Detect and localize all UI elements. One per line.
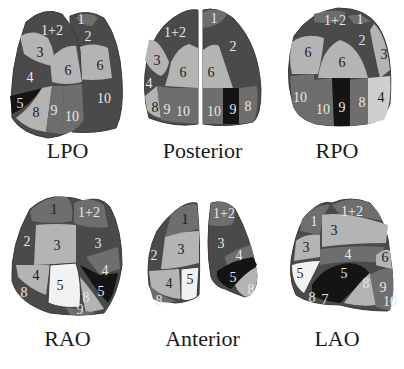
segment-label: 10 xyxy=(176,104,190,119)
view-caption: LAO xyxy=(270,326,404,352)
segment-label: 1+2 xyxy=(41,23,63,38)
view-caption: RPO xyxy=(270,138,404,164)
segment-label: 3 xyxy=(331,223,338,238)
segment-label: 4 xyxy=(345,247,352,262)
segment-label: 8 xyxy=(21,285,28,300)
segment-label: 4 xyxy=(102,263,109,278)
segment-label: 10 xyxy=(97,91,111,106)
segment-label: 6 xyxy=(305,45,312,60)
segment-label: 2 xyxy=(85,29,92,44)
segment-label: 6 xyxy=(339,55,346,70)
segment-label: 2 xyxy=(230,39,237,54)
segment-label: 9 xyxy=(380,280,387,295)
view-caption: Posterior xyxy=(135,138,270,164)
segment-label: 3 xyxy=(54,238,61,253)
segment-label: 2 xyxy=(359,33,366,48)
view-lpo: 1+2 1 2 3 6 6 4 5 8 9 10 10 LPO xyxy=(0,0,135,185)
segment-label: 10 xyxy=(383,294,397,309)
segment-label: 5 xyxy=(230,270,237,285)
segment-label: 5 xyxy=(297,266,304,281)
segment-label: 8 xyxy=(152,100,159,115)
segment-label: 1 xyxy=(357,12,364,27)
view-lao: 1 1+2 3 3 4 6 5 5 8 9 8 7 10 LAO xyxy=(270,185,404,369)
view-posterior: 1+2 1 2 3 6 6 4 8 9 10 10 9 8 Posterior xyxy=(135,0,270,185)
segment-label: 9 xyxy=(164,102,171,117)
segment-label: 1 xyxy=(211,11,218,26)
segment-label: 3 xyxy=(95,236,102,251)
segment-label: 4 xyxy=(236,248,243,263)
segment-label: 3 xyxy=(381,47,388,62)
segment-label: 8 xyxy=(83,290,90,305)
segment-label: 1 xyxy=(311,214,318,229)
segment-label: 10 xyxy=(293,90,307,105)
segment-label: 4 xyxy=(27,70,34,85)
segment-label: 6 xyxy=(65,63,72,78)
segment-label: 1 xyxy=(182,212,189,227)
segment-label: 8 xyxy=(309,290,316,305)
segment-label: 3 xyxy=(37,45,44,60)
segment-label: 5 xyxy=(187,272,194,287)
segment-label: 3 xyxy=(178,242,185,257)
segment-label: 9 xyxy=(339,100,346,115)
segment-label: 1+2 xyxy=(164,25,186,40)
segment-label: 8 xyxy=(156,293,163,308)
view-caption: Anterior xyxy=(135,326,270,352)
segment-label: 8 xyxy=(363,276,370,291)
segment-label: 4 xyxy=(378,90,385,105)
segment-label: 3 xyxy=(303,240,310,255)
segment-label: 8 xyxy=(245,99,252,114)
segment-label: 5 xyxy=(17,96,24,111)
segment-label: 8 xyxy=(33,105,40,120)
view-caption: RAO xyxy=(0,326,135,352)
segment-label: 2 xyxy=(24,234,31,249)
segment-label: 6 xyxy=(382,250,389,265)
segment-label: 1+2 xyxy=(324,13,346,28)
view-anterior: 1 1+2 2 3 3 4 4 5 5 8 8 Anterior xyxy=(135,185,270,369)
segment-label: 6 xyxy=(180,65,187,80)
segment-label: 4 xyxy=(146,76,153,91)
segment-label: 3 xyxy=(154,53,161,68)
segment-label: 1+2 xyxy=(213,206,235,221)
segment-label: 5 xyxy=(341,266,348,281)
segment-label: 10 xyxy=(207,104,221,119)
segment-label: 8 xyxy=(248,282,255,297)
segment-label: 10 xyxy=(316,102,330,117)
segment-label: 9 xyxy=(51,103,58,118)
segment-label: 1+2 xyxy=(78,205,100,220)
segment-label: 8 xyxy=(359,95,366,110)
segment-label: 5 xyxy=(98,284,105,299)
segment-label: 9 xyxy=(230,102,237,117)
segment-label: 7 xyxy=(322,292,329,307)
segment-label: 3 xyxy=(218,236,225,251)
view-caption: LPO xyxy=(0,138,135,164)
segment-label: 1 xyxy=(78,12,85,27)
segment-label: 6 xyxy=(208,65,215,80)
view-rao: 1 1+2 2 3 3 4 4 5 8 5 8 9 RAO xyxy=(0,185,135,369)
segment-label: 2 xyxy=(151,248,158,263)
segment-label: 9 xyxy=(77,302,84,317)
segment-label: 4 xyxy=(33,268,40,283)
segment-label: 10 xyxy=(65,109,79,124)
segment-label: 1+2 xyxy=(341,204,363,219)
segment-label: 4 xyxy=(166,276,173,291)
segment-label: 6 xyxy=(97,58,104,73)
segment-label: 5 xyxy=(57,278,64,293)
segment-label: 1 xyxy=(51,202,58,217)
view-rpo: 1+2 1 2 6 6 3 10 10 9 8 4 RPO xyxy=(270,0,404,185)
